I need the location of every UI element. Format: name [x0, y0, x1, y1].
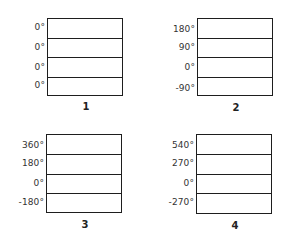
phase-label: 270°	[172, 158, 194, 168]
phase-label: 0°	[184, 178, 194, 188]
phase-label: 0°	[35, 22, 45, 32]
phase-label: 0°	[35, 80, 45, 90]
phase-label: 540°	[172, 140, 194, 150]
row-divider	[47, 193, 121, 194]
phase-label: -270°	[169, 197, 194, 207]
panel-caption: 3	[46, 219, 124, 230]
row-divider	[48, 77, 122, 78]
phase-label: 180°	[22, 158, 44, 168]
phase-label: 0°	[35, 42, 45, 52]
row-divider	[47, 174, 121, 175]
phase-label: 360°	[22, 140, 44, 150]
phase-stack-box	[46, 134, 122, 213]
phase-label: 180°	[173, 24, 195, 34]
phase-label: 0°	[35, 62, 45, 72]
panel-4: 540° 270° 0° -270° 4	[150, 134, 280, 237]
row-divider	[47, 154, 121, 155]
row-divider	[197, 193, 271, 194]
panel-caption: 1	[47, 101, 125, 112]
phase-label: 0°	[34, 178, 44, 188]
panel-3: 360° 180° 0° -180° 3	[0, 134, 130, 237]
row-divider	[48, 38, 122, 39]
phase-stack-box	[196, 134, 272, 214]
row-divider	[197, 154, 271, 155]
panel-caption: 2	[197, 102, 275, 113]
panel-1: 0° 0° 0° 0° 1	[1, 18, 131, 133]
phase-label: 90°	[179, 42, 195, 52]
row-divider	[198, 77, 272, 78]
row-divider	[48, 57, 122, 58]
phase-stack-box	[47, 18, 123, 96]
panel-caption: 4	[196, 220, 274, 231]
phase-label: 0°	[185, 62, 195, 72]
row-divider	[198, 57, 272, 58]
phase-stack-box	[197, 18, 273, 96]
phase-label: -180°	[19, 197, 44, 207]
panel-2: 180° 90° 0° -90° 2	[151, 18, 281, 133]
row-divider	[198, 38, 272, 39]
phase-label: -90°	[175, 83, 195, 93]
row-divider	[197, 174, 271, 175]
